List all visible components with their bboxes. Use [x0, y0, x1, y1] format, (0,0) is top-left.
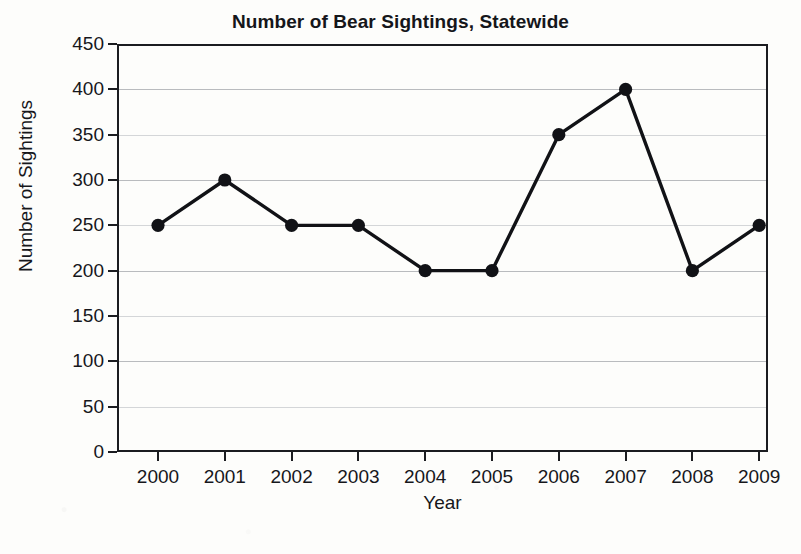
y-tick-mark — [108, 88, 117, 90]
y-tick-mark — [108, 134, 117, 136]
y-tick-mark — [108, 451, 117, 453]
x-tick-mark — [491, 452, 493, 461]
y-tick-mark — [108, 360, 117, 362]
y-tick-mark — [108, 406, 117, 408]
x-tick-mark — [224, 452, 226, 461]
x-tick-mark — [157, 452, 159, 461]
y-tick-label: 150 — [72, 305, 104, 327]
x-tick-mark — [424, 452, 426, 461]
data-point-marker — [218, 173, 231, 186]
y-tick-label: 250 — [72, 214, 104, 236]
x-tick-label: 2003 — [337, 466, 379, 488]
data-point-marker — [151, 219, 164, 232]
y-tick-mark — [108, 43, 117, 45]
chart-title: Number of Bear Sightings, Statewide — [0, 11, 801, 33]
y-tick-label: 450 — [72, 33, 104, 55]
data-point-marker — [686, 264, 699, 277]
x-tick-label: 2005 — [471, 466, 513, 488]
y-tick-mark — [108, 315, 117, 317]
x-tick-label: 2001 — [204, 466, 246, 488]
data-point-marker — [485, 264, 498, 277]
x-tick-label: 2007 — [604, 466, 646, 488]
x-tick-mark — [625, 452, 627, 461]
y-tick-label: 0 — [93, 441, 104, 463]
y-tick-label: 200 — [72, 260, 104, 282]
y-tick-mark — [108, 224, 117, 226]
data-point-marker — [552, 128, 565, 141]
x-tick-label: 2004 — [404, 466, 446, 488]
y-tick-label: 400 — [72, 78, 104, 100]
x-tick-label: 2008 — [671, 466, 713, 488]
y-axis-title: Number of Sightings — [15, 76, 37, 296]
x-tick-label: 2002 — [270, 466, 312, 488]
x-axis-title: Year — [117, 492, 768, 514]
y-tick-label: 350 — [72, 124, 104, 146]
x-tick-mark — [758, 452, 760, 461]
x-tick-label: 2006 — [538, 466, 580, 488]
x-tick-mark — [357, 452, 359, 461]
x-tick-mark — [291, 452, 293, 461]
series-line — [158, 89, 759, 270]
x-tick-mark — [691, 452, 693, 461]
data-point-marker — [285, 219, 298, 232]
data-point-marker — [753, 219, 766, 232]
data-point-marker — [352, 219, 365, 232]
data-point-marker — [619, 83, 632, 96]
chart-figure: Number of Bear Sightings, Statewide Numb… — [0, 0, 801, 554]
y-tick-mark — [108, 179, 117, 181]
y-tick-label: 300 — [72, 169, 104, 191]
plot-area: 050100150200250300350400450 200020012002… — [117, 44, 768, 452]
x-tick-label: 2009 — [738, 466, 780, 488]
data-series — [117, 44, 768, 452]
data-point-marker — [419, 264, 432, 277]
y-tick-label: 50 — [83, 396, 104, 418]
x-tick-mark — [558, 452, 560, 461]
y-tick-label: 100 — [72, 350, 104, 372]
y-tick-mark — [108, 270, 117, 272]
x-tick-label: 2000 — [137, 466, 179, 488]
